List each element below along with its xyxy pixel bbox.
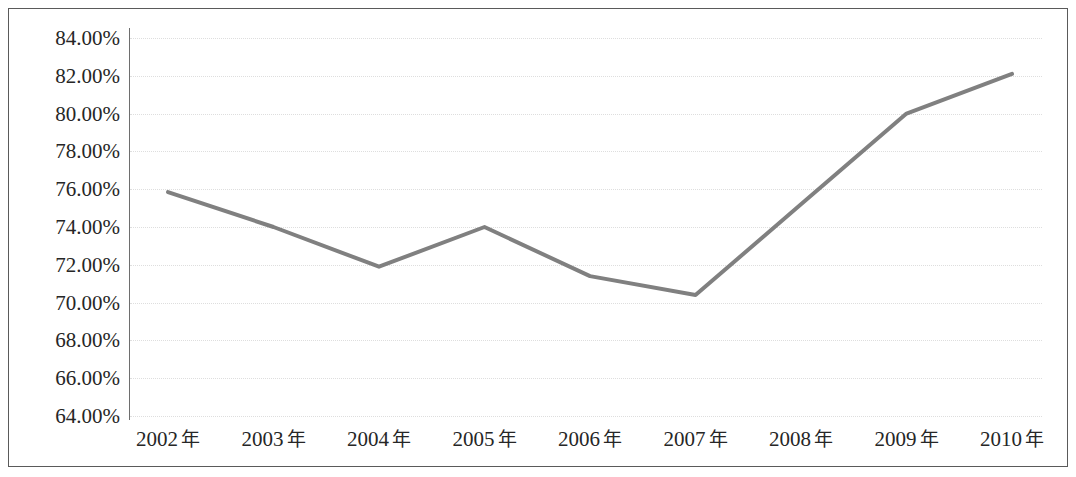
x-axis-tick-label: 2009年: [875, 424, 939, 452]
line-series: [130, 38, 1042, 416]
y-axis-tick-label: 66.00%: [55, 366, 120, 391]
y-axis-tick-label: 68.00%: [55, 328, 120, 353]
x-axis-tick-label: 2004年: [347, 424, 411, 452]
y-axis-tick-label: 84.00%: [55, 26, 120, 51]
x-axis-tick-label: 2007年: [664, 424, 728, 452]
x-axis-tick-label: 2008年: [769, 424, 833, 452]
y-axis-tick-label: 64.00%: [55, 404, 120, 429]
y-axis-tick-label: 74.00%: [55, 215, 120, 240]
y-axis-tick-label: 72.00%: [55, 252, 120, 277]
x-axis-tick-label: 2010年: [980, 424, 1044, 452]
x-axis-tick-label: 2002年: [136, 424, 200, 452]
y-axis-tick-label: 70.00%: [55, 290, 120, 315]
y-axis-tick-label: 82.00%: [55, 63, 120, 88]
y-axis: 64.00%66.00%68.00%70.00%72.00%74.00%76.0…: [0, 38, 120, 416]
plot-area: [130, 38, 1042, 416]
chart-container: 64.00%66.00%68.00%70.00%72.00%74.00%76.0…: [0, 0, 1076, 477]
y-axis-tick-label: 76.00%: [55, 177, 120, 202]
x-axis-tick-label: 2003年: [242, 424, 306, 452]
gridline: [130, 416, 1042, 417]
y-axis-tick-label: 78.00%: [55, 139, 120, 164]
series-line: [168, 74, 1012, 295]
y-axis-tick-label: 80.00%: [55, 101, 120, 126]
x-axis-tick-label: 2005年: [453, 424, 517, 452]
x-axis-tick-label: 2006年: [558, 424, 622, 452]
